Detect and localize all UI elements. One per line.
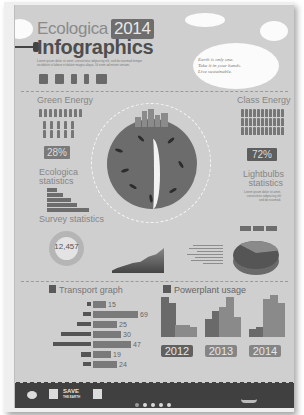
transport-value: 24 (119, 361, 127, 368)
poster-frame: Ecologica2014 Infographics Lorem ipsum d… (4, 2, 294, 412)
ecologica-bars (47, 188, 97, 213)
subway-icon (53, 342, 91, 346)
green-energy-people (39, 109, 83, 117)
save-earth-logo: SAVE THE EARTH (63, 388, 80, 400)
cloud-icon (260, 21, 288, 41)
title-line2: Infographics (37, 36, 153, 59)
ship-icon (81, 352, 91, 357)
quote-line: Live sustainable. (198, 69, 270, 75)
city-skyline (135, 109, 171, 127)
wind-turbine-icon (84, 74, 89, 84)
footer: SAVE THE EARTH (15, 383, 294, 408)
car-icon (83, 312, 91, 316)
transport-value: 69 (140, 311, 148, 318)
lightbulbs-title: Lightbulbs statistics (243, 170, 283, 188)
green-energy-people-row2 (43, 121, 77, 138)
lightbulb-labels (240, 217, 279, 235)
page-dots (135, 393, 175, 408)
transport-title: Transport graph (59, 285, 123, 295)
stat-bar (47, 203, 77, 207)
transport-value: 19 (113, 351, 121, 358)
transport-bar (93, 341, 131, 348)
survey-bar-lines (183, 245, 223, 266)
lightbulbs-text: Lorem ipsum dolor sit amet, consectetur … (243, 190, 281, 202)
green-energy-percent: 28% (44, 146, 70, 159)
factory-icon (55, 74, 64, 84)
survey-title: Survey statistics (39, 214, 104, 224)
year-label-2014: 2014 (249, 345, 281, 357)
green-energy-title: Green Energy (37, 95, 93, 105)
transport-bar (93, 331, 121, 338)
transport-bar (93, 321, 117, 328)
transport-bar (93, 311, 138, 318)
dot (159, 403, 163, 407)
stat-bar (47, 208, 89, 212)
cloud-icon (185, 13, 225, 27)
earth-text: THE EARTH (63, 394, 80, 400)
powerplant-group-2012 (161, 295, 201, 337)
class-energy-title: Class Energy (237, 95, 291, 105)
transport-bar (93, 301, 106, 308)
transport-bar (93, 351, 111, 358)
powerplant-group-2013 (205, 295, 245, 337)
class-energy-percent: 72% (247, 148, 277, 161)
dot (143, 403, 147, 407)
powerplant-icon (163, 285, 171, 293)
train-icon (61, 332, 91, 336)
eco-logo-icon (93, 389, 102, 399)
stat-bar (47, 193, 63, 197)
dot (135, 403, 139, 407)
header-blurb: Lorem ipsum dolor sit amet, consectetur … (37, 59, 147, 67)
factory-icon (39, 74, 48, 84)
ecologica-statistics-title: Ecologica statistics (39, 168, 78, 186)
bulb-label (266, 226, 277, 231)
city-icon (96, 74, 107, 84)
bulb-label (253, 226, 264, 231)
transport-graph: 15 69 25 30 47 19 24 (45, 300, 165, 370)
infographic-poster: Ecologica2014 Infographics Lorem ipsum d… (14, 5, 294, 408)
solar-panel-icon (71, 74, 77, 84)
class-energy-people (241, 109, 284, 135)
bike-icon (87, 302, 91, 306)
title-line: statistics (39, 177, 78, 186)
divider (21, 281, 288, 282)
airplane-icon (83, 362, 91, 366)
survey-count: 12,457 (49, 242, 84, 251)
bulb-label (240, 226, 251, 231)
header-icons (39, 74, 107, 84)
transport-value: 30 (123, 331, 131, 338)
recycle-logo-icon (27, 391, 37, 399)
powerplant-group-2014 (249, 295, 289, 337)
transport-value: 47 (133, 341, 141, 348)
stat-bar (47, 188, 57, 192)
road-illustration (146, 139, 160, 209)
divider (21, 91, 288, 92)
stat-bar (47, 198, 71, 202)
grid-logo-icon (49, 389, 58, 399)
survey-area-chart (112, 248, 164, 273)
transport-value: 25 (119, 321, 127, 328)
cyclist-icon (241, 387, 257, 403)
quote-text: Earth is only one. Take it in your hands… (198, 57, 270, 75)
transport-bar (93, 361, 117, 368)
transport-value: 15 (108, 301, 116, 308)
powerplant-title: Powerplant usage (174, 285, 246, 295)
bar-chart-icon (49, 285, 56, 293)
year-label-2012: 2012 (161, 345, 193, 357)
title-line: statistics (243, 179, 283, 188)
dot (167, 403, 171, 407)
year-label-2013: 2013 (205, 345, 237, 357)
cloud-icon (14, 19, 33, 39)
dot (151, 403, 155, 407)
bus-icon (77, 322, 91, 326)
